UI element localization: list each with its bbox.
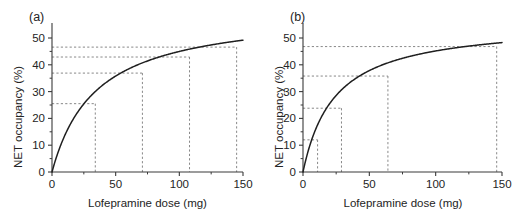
- x-tick-label-1: 50: [363, 178, 376, 190]
- panel-a: (a) 01020304050050100150 Lofepramine dos…: [0, 0, 261, 221]
- y-tick-label-3: 30: [283, 86, 296, 98]
- y-tick-label-1: 10: [32, 139, 45, 151]
- dose-occupancy-curve: [303, 43, 502, 172]
- panel-a-y-axis-title: NET occupancy (%): [12, 66, 24, 168]
- panel-a-x-axis-title: Lofepramine dose (mg): [52, 197, 243, 209]
- x-tick-label-1: 50: [109, 178, 122, 190]
- y-tick-label-5: 50: [32, 32, 45, 44]
- y-tick-label-4: 40: [32, 59, 45, 71]
- y-tick-label-2: 20: [32, 112, 45, 124]
- panel-b-plot: 01020304050050100150: [261, 0, 522, 221]
- x-tick-label-2: 100: [426, 178, 445, 190]
- y-tick-label-4: 40: [283, 59, 296, 71]
- panel-b-y-axis-title: NET occupancy (%): [273, 66, 285, 168]
- x-tick-label-3: 150: [233, 178, 252, 190]
- y-tick-label-1: 10: [283, 139, 296, 151]
- dose-occupancy-curve: [52, 40, 243, 172]
- x-tick-label-2: 100: [170, 178, 189, 190]
- x-tick-label-0: 0: [300, 178, 306, 190]
- panel-a-plot: 01020304050050100150: [0, 0, 261, 221]
- x-tick-label-3: 150: [492, 178, 511, 190]
- x-tick-label-0: 0: [49, 178, 55, 190]
- y-tick-label-5: 50: [283, 32, 296, 44]
- y-tick-label-0: 0: [290, 166, 296, 178]
- y-tick-label-0: 0: [39, 166, 45, 178]
- figure-dose-occupancy: (a) 01020304050050100150 Lofepramine dos…: [0, 0, 523, 221]
- y-tick-label-3: 30: [32, 86, 45, 98]
- panel-b: (b) 01020304050050100150 Lofepramine dos…: [261, 0, 522, 221]
- y-tick-label-2: 20: [283, 112, 296, 124]
- panel-b-x-axis-title: Lofepramine dose (mg): [303, 197, 503, 209]
